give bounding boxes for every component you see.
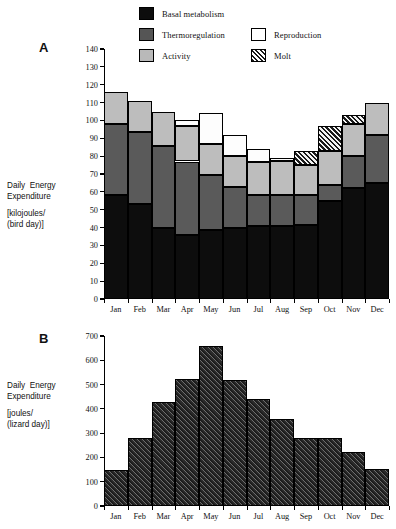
legend-item-basal-metabolism: Basal metabolism bbox=[139, 7, 224, 20]
legend-label-reproduction: Reproduction bbox=[274, 30, 321, 40]
bar-segment-reproduction bbox=[223, 135, 247, 156]
bar-segment-thermoregulation bbox=[175, 162, 199, 235]
y-tick-label: 80 bbox=[90, 152, 98, 161]
x-tick-label-mar: Mar bbox=[156, 305, 170, 314]
panel-b-axis-caption-units: [joules/ (lizard day)] bbox=[7, 409, 50, 430]
basal-metabolism-swatch-icon bbox=[139, 7, 154, 20]
x-tick bbox=[389, 506, 390, 510]
bar-segment-basal-metabolism bbox=[270, 226, 294, 299]
bar-segment-molt bbox=[318, 126, 342, 151]
bar-may bbox=[199, 346, 223, 506]
panel-a-caption-line3: [kilojoules/ bbox=[7, 209, 45, 218]
x-tick bbox=[199, 299, 200, 303]
bar-segment-activity bbox=[104, 92, 128, 124]
x-tick-label-may: May bbox=[203, 305, 218, 314]
y-tick-label: 100 bbox=[86, 116, 98, 125]
y-tick-label: 70 bbox=[90, 170, 98, 179]
bar-segment-thermoregulation bbox=[199, 175, 223, 230]
bar-segment-basal-metabolism bbox=[318, 201, 342, 299]
y-tick-label: 200 bbox=[86, 453, 98, 462]
stacked-bar-mar bbox=[152, 49, 176, 299]
bar-segment-thermoregulation bbox=[270, 195, 294, 226]
x-tick bbox=[365, 506, 366, 510]
x-tick bbox=[389, 299, 390, 303]
y-tick-label: 600 bbox=[86, 356, 98, 365]
bar-segment-activity bbox=[128, 101, 152, 132]
x-tick bbox=[175, 299, 176, 303]
bar-segment-activity bbox=[342, 124, 366, 156]
bar-segment-reproduction bbox=[199, 113, 223, 143]
bar-jan bbox=[104, 470, 128, 506]
bar-mar bbox=[152, 402, 176, 506]
x-tick bbox=[152, 299, 153, 303]
bar-segment-reproduction bbox=[247, 149, 271, 162]
x-tick-label-sep: Sep bbox=[300, 305, 312, 314]
x-tick-label-mar: Mar bbox=[156, 512, 170, 521]
y-tick-label: 140 bbox=[86, 45, 98, 54]
bar-segment-basal-metabolism bbox=[247, 226, 271, 299]
thermoregulation-swatch-icon bbox=[139, 28, 154, 41]
bar-sep bbox=[294, 438, 318, 506]
x-tick bbox=[175, 506, 176, 510]
stacked-bar-sep bbox=[294, 49, 318, 299]
x-tick-label-dec: Dec bbox=[370, 305, 383, 314]
legend-label-thermoregulation: Thermoregulation bbox=[162, 30, 225, 40]
x-tick-label-may: May bbox=[203, 512, 218, 521]
y-tick-label: 400 bbox=[86, 404, 98, 413]
bar-segment-molt bbox=[342, 115, 366, 124]
panel-b-axis-caption-title: Daily Energy Expenditure bbox=[7, 381, 56, 402]
bar-segment-activity bbox=[365, 103, 389, 135]
panel-a-plot: 0102030405060708090100110120130140 JanFe… bbox=[104, 49, 389, 299]
bar-segment-basal-metabolism bbox=[152, 228, 176, 299]
panel-b-bars bbox=[104, 336, 389, 506]
y-tick-label: 90 bbox=[90, 134, 98, 143]
bar-segment-thermoregulation bbox=[294, 195, 318, 224]
x-tick-label-feb: Feb bbox=[133, 512, 145, 521]
reproduction-swatch-icon bbox=[251, 28, 266, 41]
bar-segment-basal-metabolism bbox=[128, 204, 152, 299]
panel-a-axis-caption-units: [kilojoules/ (bird day)] bbox=[7, 209, 45, 230]
y-tick-label: 100 bbox=[86, 477, 98, 486]
x-tick-label-feb: Feb bbox=[133, 305, 145, 314]
panel-a-caption-line1: Daily Energy bbox=[7, 181, 56, 190]
stacked-bar-dec bbox=[365, 49, 389, 299]
panel-b-letter: B bbox=[39, 331, 48, 346]
bar-segment-activity bbox=[175, 126, 199, 162]
x-tick bbox=[128, 506, 129, 510]
x-tick bbox=[247, 506, 248, 510]
stacked-bar-oct bbox=[318, 49, 342, 299]
x-tick bbox=[223, 506, 224, 510]
panel-b-caption-line1: Daily Energy bbox=[7, 381, 56, 390]
bar-segment-thermoregulation bbox=[104, 124, 128, 195]
stacked-bar-may bbox=[199, 49, 223, 299]
panel-a-caption-line4: (bird day)] bbox=[7, 220, 44, 229]
x-tick bbox=[270, 299, 271, 303]
bar-segment-activity bbox=[294, 165, 318, 195]
bar-segment-activity bbox=[270, 161, 294, 195]
x-tick-label-jun: Jun bbox=[229, 512, 241, 521]
x-tick bbox=[270, 506, 271, 510]
y-tick-label: 700 bbox=[86, 332, 98, 341]
stacked-bar-jan bbox=[104, 49, 128, 299]
bar-feb bbox=[128, 438, 152, 506]
bar-segment-basal-metabolism bbox=[104, 195, 128, 299]
x-tick bbox=[104, 506, 105, 510]
bar-segment-thermoregulation bbox=[152, 146, 176, 227]
panel-b-caption-line4: (lizard day)] bbox=[7, 420, 50, 429]
bar-segment-thermoregulation bbox=[223, 187, 247, 228]
bar-oct bbox=[318, 438, 342, 506]
legend-item-reproduction: Reproduction bbox=[251, 28, 321, 41]
x-tick-label-apr: Apr bbox=[181, 512, 194, 521]
x-tick-label-nov: Nov bbox=[346, 305, 360, 314]
stacked-bar-feb bbox=[128, 49, 152, 299]
bar-segment-thermoregulation bbox=[365, 135, 389, 183]
x-tick-label-sep: Sep bbox=[300, 512, 312, 521]
legend-label-basal-metabolism: Basal metabolism bbox=[162, 9, 224, 19]
bar-segment-basal-metabolism bbox=[199, 230, 223, 299]
bar-segment-thermoregulation bbox=[128, 132, 152, 204]
x-tick bbox=[199, 506, 200, 510]
bar-segment-activity bbox=[199, 144, 223, 175]
bar-segment-activity bbox=[247, 162, 271, 196]
bar-segment-activity bbox=[318, 151, 342, 185]
bar-segment-basal-metabolism bbox=[175, 235, 199, 299]
